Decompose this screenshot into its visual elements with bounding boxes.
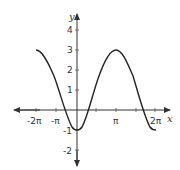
graph: y x -2π -π π 2π 4 3 2 1 -1 -2	[0, 0, 180, 170]
y-tick-label-4: 4	[67, 25, 73, 35]
x-tick-label-pi: π	[113, 116, 119, 126]
y-tick-label-3: 3	[67, 45, 73, 55]
y-axis-label: y	[68, 11, 75, 22]
x-tick-label-2pi: 2π	[150, 116, 162, 126]
x-tick-label-neg-pi: -π	[51, 116, 60, 126]
y-tick-label-1: 1	[67, 85, 73, 95]
x-tick-label-neg-2pi: -2π	[27, 116, 42, 126]
y-tick-label-neg-2: -2	[63, 146, 72, 156]
y-tick-label-neg-1: -1	[63, 126, 72, 136]
y-tick-label-2: 2	[67, 65, 73, 75]
x-axis-label: x	[167, 113, 173, 124]
